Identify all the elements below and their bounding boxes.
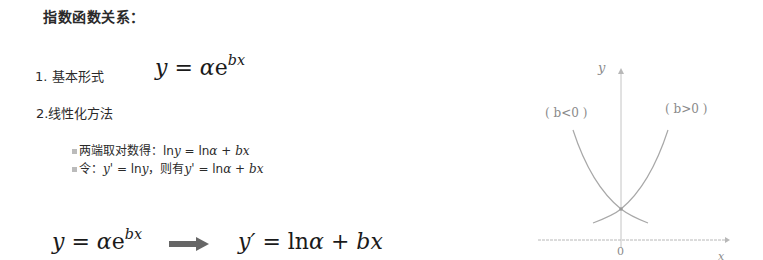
bullet-substitution: 令：y' = lny，则有y' = lnα + bx (72, 159, 263, 176)
right-eq: = ln (255, 229, 309, 254)
formula-base: e (215, 55, 228, 80)
arrow-right-icon (169, 231, 209, 256)
bullet-text: 令： (79, 162, 103, 176)
bullet-text: 两端取对数得： (79, 144, 163, 158)
formula-lhs: y (155, 55, 167, 80)
then-text: ，则有 (148, 162, 184, 176)
right-lhs: y′ (238, 229, 255, 254)
section-linearization-label: 2.线性化方法 (36, 103, 113, 122)
formula-eq: = (167, 55, 199, 80)
right-plus: + (324, 229, 356, 254)
basic-form-formula: y = αebx (155, 55, 245, 80)
curve-label-b-positive: ( b>0 ) (665, 102, 707, 116)
left-base: e (112, 229, 125, 254)
x-axis-label: x (718, 250, 724, 260)
bx: bx (235, 144, 249, 158)
eq-ln: = ln (113, 162, 142, 176)
var-y-prime: y' (103, 162, 113, 176)
origin-label: 0 (617, 245, 624, 258)
var-y: y (174, 144, 181, 158)
plus: + (231, 162, 249, 176)
plus: + (217, 144, 235, 158)
right-bx: bx (356, 229, 383, 254)
left-coef: α (97, 229, 112, 254)
formula-coef: α (200, 55, 215, 80)
left-eq: = (64, 229, 96, 254)
var-y-prime: y' (184, 162, 194, 176)
eq-ln: = ln (181, 144, 210, 158)
exponential-graph: y ( b<0 ) ( b>0 ) 0 x (530, 50, 763, 260)
bullet-square-icon (72, 149, 77, 154)
left-lhs: y (52, 229, 64, 254)
section-basic-form-label: 1. 基本形式 (35, 66, 104, 85)
eq-ln: = ln (195, 162, 224, 176)
page-title: 指数函数关系： (43, 6, 145, 26)
right-coef: α (309, 229, 324, 254)
bullet-square-icon (72, 167, 77, 172)
curve-label-b-negative: ( b<0 ) (545, 106, 587, 120)
bullet-log-both-sides: 两端取对数得：lny = lnα + bx (72, 141, 250, 158)
formula-exp: bx (228, 52, 245, 68)
y-axis-label: y (598, 60, 605, 75)
ln-text: ln (163, 144, 174, 158)
left-exp: bx (125, 226, 142, 242)
transform-formula: y = αebx y′ = lnα + bx (52, 229, 383, 256)
bx: bx (249, 162, 263, 176)
